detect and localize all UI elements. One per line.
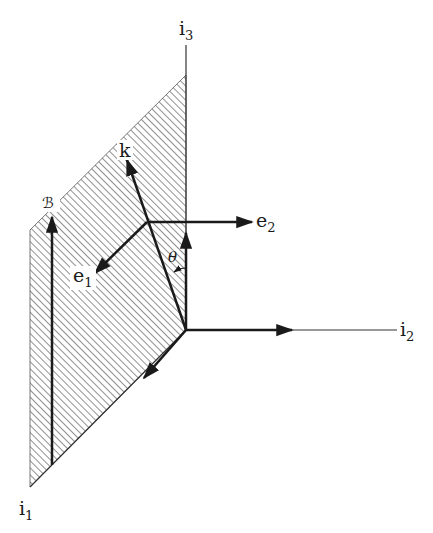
label-k: k	[117, 139, 133, 161]
svg-text:θ: θ	[168, 248, 177, 266]
label-e1: e1	[70, 264, 96, 290]
label-e2: e2	[256, 209, 276, 235]
svg-text:ℬ: ℬ	[42, 194, 54, 212]
svg-text:k: k	[119, 139, 131, 161]
hatched-plane	[30, 75, 186, 487]
vector-diagram: i3 i2 i1 k e1 e2 ℬ θ	[0, 0, 433, 533]
label-theta: θ	[168, 248, 177, 266]
svg-text:i2: i2	[400, 318, 414, 344]
label-i2: i2	[400, 318, 414, 344]
svg-text:i1: i1	[19, 497, 33, 523]
label-b: ℬ	[40, 194, 60, 212]
label-i1: i1	[19, 497, 33, 523]
svg-text:i3: i3	[179, 17, 193, 43]
svg-text:e2: e2	[256, 209, 276, 235]
label-i3: i3	[179, 17, 193, 43]
